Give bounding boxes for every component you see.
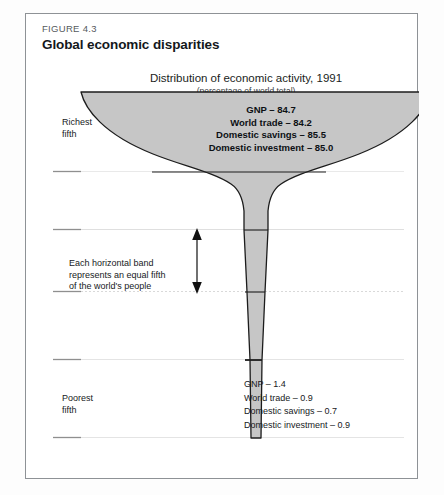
bottom-value-domestic-investment: Domestic investment – 0.9 — [244, 419, 409, 433]
top-value-gnp: GNP – 84.7 — [176, 104, 366, 117]
label-poorest-fifth: Poorest fifth — [62, 393, 93, 416]
label-richest-line1: Richest — [62, 117, 92, 129]
bottom-value-world-trade: World trade – 0.9 — [244, 392, 409, 406]
top-value-annotations: GNP – 84.7 World trade – 84.2 Domestic s… — [176, 104, 366, 154]
top-value-domestic-investment: Domestic investment – 85.0 — [176, 142, 366, 155]
label-band-line1: Each horizontal band — [69, 258, 209, 270]
label-band-note: Each horizontal band represents an equal… — [69, 258, 209, 293]
bottom-value-domestic-savings: Domestic savings – 0.7 — [244, 405, 409, 419]
figure-page: FIGURE 4.3 Global economic disparities D… — [0, 0, 444, 495]
label-band-line2: represents an equal fifth — [69, 270, 209, 282]
label-band-line3: of the world's people — [69, 281, 209, 293]
label-poorest-line2: fifth — [62, 405, 93, 417]
bottom-value-annotations: GNP – 1.4 World trade – 0.9 Domestic sav… — [244, 378, 409, 432]
label-richest-line2: fifth — [62, 129, 92, 141]
bottom-value-gnp: GNP – 1.4 — [244, 378, 409, 392]
top-value-domestic-savings: Domestic savings – 85.5 — [176, 129, 366, 142]
top-value-world-trade: World trade – 84.2 — [176, 117, 366, 130]
figure-frame: FIGURE 4.3 Global economic disparities D… — [25, 13, 418, 479]
label-richest-fifth: Richest fifth — [62, 117, 92, 140]
label-poorest-line1: Poorest — [62, 393, 93, 405]
